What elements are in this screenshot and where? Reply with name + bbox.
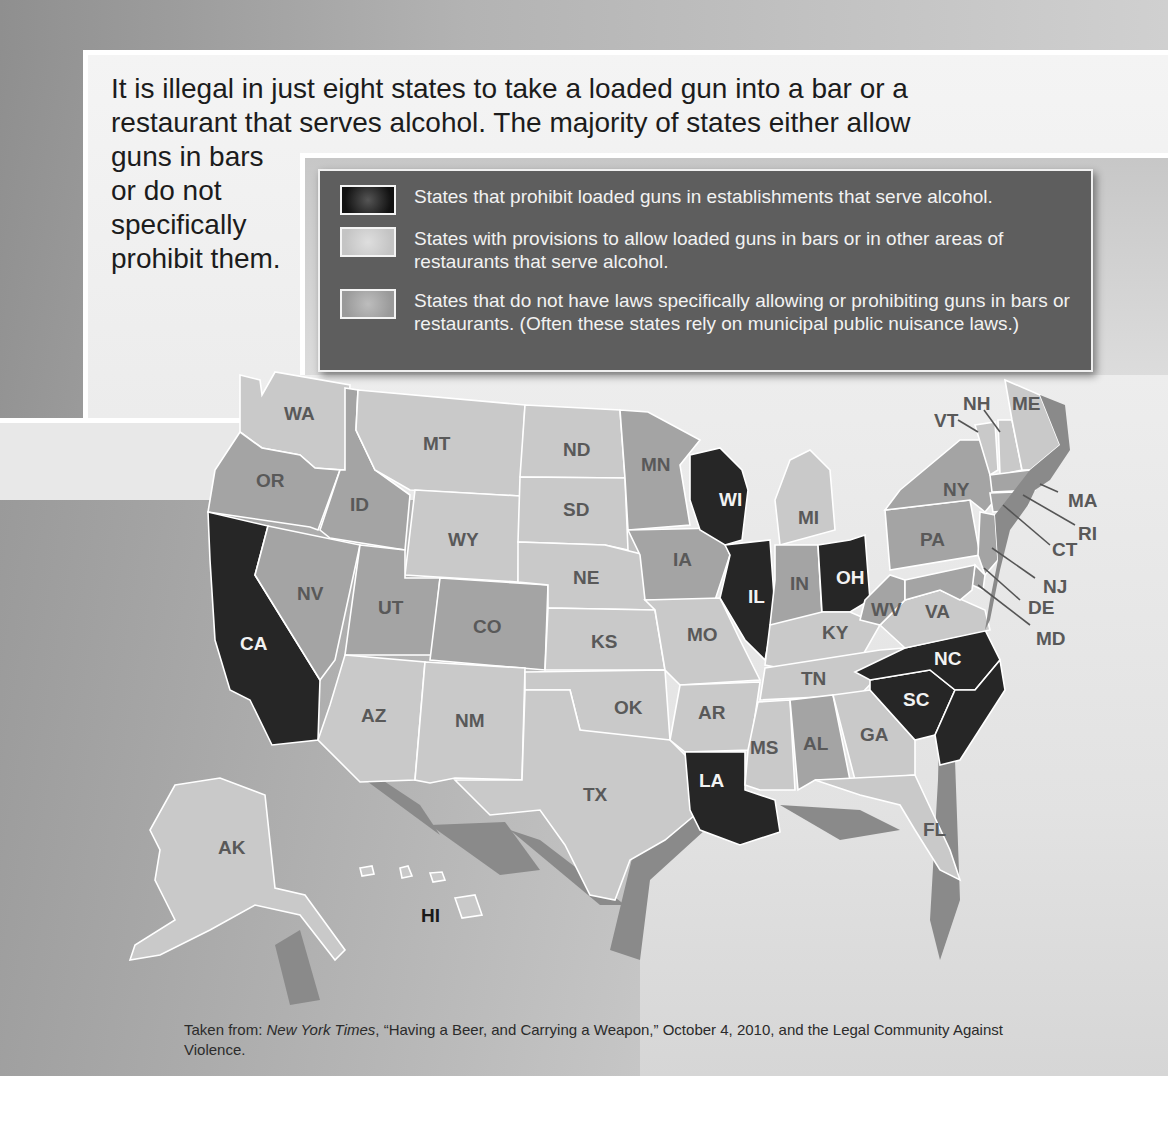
- label-SC: SC: [903, 689, 930, 710]
- label-WV: WV: [871, 599, 902, 620]
- label-KS: KS: [591, 631, 617, 652]
- label-IL: IL: [748, 586, 765, 607]
- label-CA: CA: [240, 633, 268, 654]
- label-MS: MS: [750, 737, 779, 758]
- label-NY: NY: [943, 479, 970, 500]
- label-MI: MI: [798, 507, 819, 528]
- label-OK: OK: [614, 697, 643, 718]
- label-VA: VA: [925, 601, 950, 622]
- label-TN: TN: [801, 668, 826, 689]
- label-GA: GA: [860, 724, 889, 745]
- label-WA: WA: [284, 403, 315, 424]
- label-AZ: AZ: [361, 705, 387, 726]
- state-NJ: [978, 512, 998, 575]
- label-OR: OR: [256, 470, 285, 491]
- label-MD: MD: [1036, 628, 1066, 649]
- label-CO: CO: [473, 616, 502, 637]
- label-RI: RI: [1078, 523, 1097, 544]
- label-KY: KY: [822, 622, 849, 643]
- label-UT: UT: [378, 597, 404, 618]
- label-ME: ME: [1012, 393, 1041, 414]
- source-prefix: Taken from:: [184, 1021, 267, 1038]
- state-MI: [775, 450, 835, 545]
- label-MT: MT: [423, 433, 451, 454]
- label-OH: OH: [836, 567, 865, 588]
- label-NJ: NJ: [1043, 576, 1067, 597]
- label-SD: SD: [563, 499, 589, 520]
- label-NV: NV: [297, 583, 324, 604]
- label-FL: FL: [923, 819, 947, 840]
- label-ND: ND: [563, 439, 590, 460]
- label-NM: NM: [455, 710, 485, 731]
- label-HI: HI: [421, 905, 440, 926]
- label-NC: NC: [934, 648, 962, 669]
- label-TX: TX: [583, 784, 608, 805]
- label-VT: VT: [934, 410, 959, 431]
- label-WI: WI: [719, 489, 742, 510]
- label-AK: AK: [218, 837, 246, 858]
- us-map: WA OR CA ID NV MT WY UT CO AZ NM ND SD N…: [0, 0, 1168, 1128]
- state-AK: [130, 778, 345, 960]
- label-LA: LA: [699, 770, 725, 791]
- label-NE: NE: [573, 567, 599, 588]
- label-AR: AR: [698, 702, 726, 723]
- label-WY: WY: [448, 529, 479, 550]
- label-PA: PA: [920, 529, 945, 550]
- label-MN: MN: [641, 454, 671, 475]
- label-AL: AL: [803, 733, 829, 754]
- label-ID: ID: [350, 494, 369, 515]
- label-MA: MA: [1068, 490, 1098, 511]
- label-NH: NH: [963, 393, 990, 414]
- label-IA: IA: [673, 549, 692, 570]
- label-IN: IN: [790, 573, 809, 594]
- source-publication: New York Times: [267, 1021, 376, 1038]
- state-NY: [885, 440, 995, 512]
- source-citation: Taken from: New York Times, “Having a Be…: [184, 1020, 1004, 1060]
- label-MO: MO: [687, 624, 718, 645]
- label-CT: CT: [1052, 539, 1078, 560]
- label-DE: DE: [1028, 597, 1054, 618]
